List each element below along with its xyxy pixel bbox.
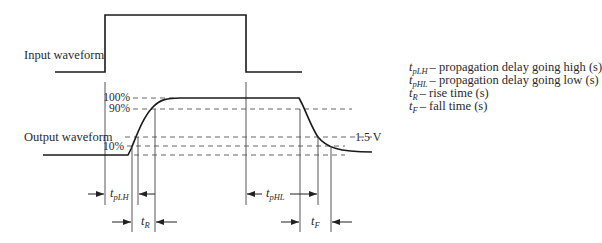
threshold-label: 1.5 V — [355, 131, 381, 143]
legend-item-tF: tF– fall time (s) — [409, 100, 602, 113]
input-waveform-label: Input waveform — [24, 49, 104, 62]
tpLH-sub: pLH — [113, 192, 128, 202]
legend-text: – rise time (s) — [420, 86, 489, 100]
legend-text: – propagation delay going high (s) — [430, 60, 602, 74]
level-10-label: 10% — [90, 141, 124, 153]
legend-symbol: tpHL — [409, 73, 428, 87]
legend-symbol: tF — [409, 99, 418, 113]
legend-symbol-sub: F — [412, 105, 417, 115]
legend-text: – fall time (s) — [420, 99, 488, 113]
level-90-label: 90% — [96, 103, 130, 115]
timing-markers — [132, 109, 331, 232]
legend: tpLH– propagation delay going high (s) t… — [409, 61, 602, 113]
level-lines — [125, 98, 372, 155]
tpHL-sub: pHL — [269, 192, 284, 202]
tpLH-label: tpLH — [110, 187, 129, 202]
tF-sub: F — [314, 220, 319, 230]
legend-symbol: tpLH — [409, 60, 428, 74]
legend-symbol: tR — [409, 86, 418, 100]
tF-label: tF — [311, 215, 320, 230]
tR-label: tR — [141, 215, 150, 230]
legend-text: – propagation delay going low (s) — [430, 73, 599, 87]
input-waveform-line — [55, 15, 302, 72]
tR-sub: R — [144, 220, 149, 230]
tpHL-label: tpHL — [266, 187, 285, 202]
